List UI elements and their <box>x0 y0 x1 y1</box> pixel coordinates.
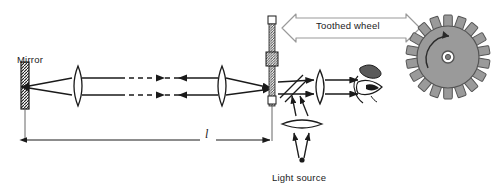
ray-converging-to-chopper <box>226 78 271 95</box>
ray-lower <box>82 92 218 99</box>
mirror-label: Mirror <box>17 54 43 65</box>
eye-lower-lash <box>371 96 377 102</box>
rod-collar <box>266 52 278 66</box>
mirror <box>21 62 29 141</box>
observer-eye <box>354 65 382 103</box>
toothed-wheel-label: Toothed wheel <box>316 20 380 31</box>
distance-label: l <box>205 127 209 142</box>
diagram-canvas <box>0 0 494 193</box>
toothed-wheel-rod <box>266 16 278 141</box>
ray-upper <box>82 75 218 82</box>
fizeau-apparatus-figure: Mirror Toothed wheel Light source l <box>0 0 494 193</box>
eyebrow-shape <box>360 65 381 78</box>
ray-bundle-mirror-to-lens <box>29 78 72 95</box>
collimating-lens-right <box>218 66 226 106</box>
mirror-surface <box>21 62 29 109</box>
beam-splitter <box>280 75 308 102</box>
toothed-wheel <box>406 15 490 99</box>
eyepiece-lens <box>316 70 324 104</box>
light-source-label: Light source <box>272 172 326 183</box>
rod-top-cap <box>268 16 276 24</box>
condenser-lens <box>282 120 322 128</box>
ray-to-eye <box>325 80 358 94</box>
collimating-lens-left <box>74 66 82 106</box>
light-source-point <box>299 157 304 162</box>
rod-bottom-cap <box>268 96 276 104</box>
gear-hub-inner <box>445 54 450 59</box>
